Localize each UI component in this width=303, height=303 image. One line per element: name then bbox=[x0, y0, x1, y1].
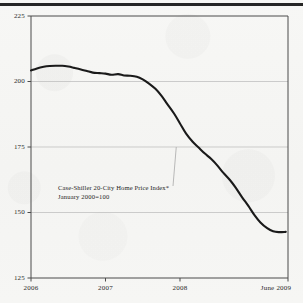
data-series-line bbox=[31, 66, 286, 232]
x-axis-tick-label: 2007 bbox=[75, 284, 135, 292]
line-chart bbox=[0, 0, 303, 303]
y-axis-tick-label: 125 bbox=[0, 274, 25, 282]
annotation-leader-line bbox=[173, 147, 176, 186]
y-axis-tick-label: 175 bbox=[0, 143, 25, 151]
y-axis-tick-label: 225 bbox=[0, 12, 25, 20]
series-annotation: Case-Shiller 20-City Home Price Index* J… bbox=[58, 183, 169, 201]
y-axis-tick-label: 200 bbox=[0, 77, 25, 85]
x-axis-tick-label: 2008 bbox=[150, 284, 210, 292]
x-axis-ticks bbox=[31, 278, 288, 282]
annotation-line-2: January 2000=100 bbox=[58, 192, 169, 201]
annotation-line-1: Case-Shiller 20-City Home Price Index* bbox=[58, 183, 169, 192]
y-axis-ticks bbox=[28, 16, 32, 278]
x-axis-tick-label: June 2009 bbox=[246, 284, 303, 292]
x-axis-tick-label: 2006 bbox=[1, 284, 61, 292]
y-axis-tick-label: 150 bbox=[0, 208, 25, 216]
chart-page: 225200175150125 200620072008June 2009 Ca… bbox=[0, 0, 303, 303]
